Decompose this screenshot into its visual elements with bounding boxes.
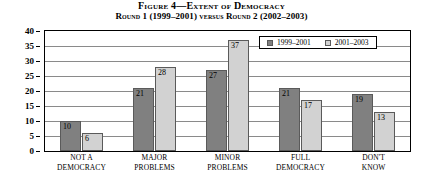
bar[interactable]: 17: [301, 100, 322, 151]
bar[interactable]: 21: [279, 88, 300, 151]
x-axis-label-line: FULL: [264, 153, 337, 163]
y-tick-label-10: 10: [25, 117, 34, 126]
y-tick-label-40: 40: [25, 27, 34, 36]
y-tick-label-35: 35: [25, 42, 34, 51]
x-axis-label-line: DEMOCRACY: [264, 163, 337, 173]
x-axis-label: MAJORPROBLEMS: [118, 153, 191, 173]
bar-value-label: 37: [231, 42, 239, 50]
y-tick-mark-5: [36, 136, 40, 137]
bar-group: 2128: [118, 31, 191, 151]
y-tick-mark-35: [36, 46, 40, 47]
y-tick-mark-20: [36, 91, 40, 92]
y-tick-label-30: 30: [25, 57, 34, 66]
bar[interactable]: 21: [133, 88, 154, 151]
x-axis-label: DON'TKNOW: [337, 153, 410, 173]
x-axis-label: NOT ADEMOCRACY: [45, 153, 118, 173]
bar[interactable]: 13: [374, 112, 395, 151]
bar-group: 2117: [264, 31, 337, 151]
x-axis-label-line: KNOW: [337, 163, 410, 173]
y-tick-label-20: 20: [25, 87, 34, 96]
y-tick-mark-10: [36, 121, 40, 122]
bar-value-label: 21: [136, 90, 144, 98]
bar-value-label: 27: [209, 72, 217, 80]
y-tick-mark-25: [36, 76, 40, 77]
x-axis-label: MINORPROBLEMS: [191, 153, 264, 173]
chart-legend: 1999–20012001–2003: [259, 36, 377, 49]
bar[interactable]: 10: [60, 121, 81, 151]
y-tick-mark-30: [36, 61, 40, 62]
bar-group: 1913: [337, 31, 410, 151]
x-axis-label-line: PROBLEMS: [191, 163, 264, 173]
bar-value-label: 10: [63, 123, 71, 131]
legend-item[interactable]: 1999–2001: [267, 39, 311, 47]
y-tick-mark-0: [36, 151, 40, 152]
legend-label: 2001–2003: [335, 39, 369, 47]
bar[interactable]: 37: [228, 40, 249, 151]
x-axis-label-line: DON'T: [337, 153, 410, 163]
y-tick-label-0: 0: [30, 147, 35, 156]
y-tick-label-25: 25: [25, 72, 34, 81]
x-axis-label-line: MINOR: [191, 153, 264, 163]
legend-label: 1999–2001: [277, 39, 311, 47]
bar-group: 2737: [191, 31, 264, 151]
chart-title-block: Figure 4—Extent of Democracy Round 1 (19…: [0, 0, 423, 22]
y-axis: 0510152025303540: [0, 30, 40, 152]
y-tick-label-15: 15: [25, 102, 34, 111]
y-tick-mark-40: [36, 31, 40, 32]
legend-swatch: [325, 40, 331, 46]
x-axis-label-line: PROBLEMS: [118, 163, 191, 173]
x-axis-label: FULLDEMOCRACY: [264, 153, 337, 173]
bar[interactable]: 27: [206, 70, 227, 151]
bar-group: 106: [45, 31, 118, 151]
chart-subtitle: Round 1 (1999–2001) versus Round 2 (2002…: [0, 11, 423, 22]
bar-value-label: 17: [304, 102, 312, 110]
bar-value-label: 13: [377, 114, 385, 122]
bar-value-label: 21: [282, 90, 290, 98]
bar[interactable]: 19: [352, 94, 373, 151]
x-axis-label-line: DEMOCRACY: [45, 163, 118, 173]
legend-item[interactable]: 2001–2003: [325, 39, 369, 47]
legend-swatch: [267, 40, 273, 46]
x-axis-label-line: MAJOR: [118, 153, 191, 163]
bar[interactable]: 6: [82, 133, 103, 151]
bars-layer: 1062128273721171913: [45, 31, 410, 151]
bar-value-label: 19: [355, 96, 363, 104]
bar-value-label: 28: [158, 69, 166, 77]
x-axis-category-labels: NOT ADEMOCRACYMAJORPROBLEMSMINORPROBLEMS…: [45, 153, 410, 179]
y-tick-mark-15: [36, 106, 40, 107]
x-axis-label-line: NOT A: [45, 153, 118, 163]
bar-value-label: 6: [85, 135, 89, 143]
chart-title: Figure 4—Extent of Democracy: [0, 0, 423, 11]
bar[interactable]: 28: [155, 67, 176, 151]
y-tick-label-5: 5: [30, 132, 35, 141]
